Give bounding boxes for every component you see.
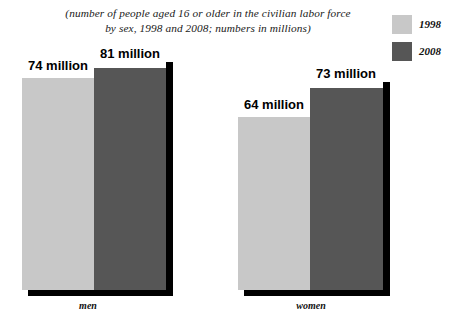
bar-women-2008 [310, 88, 383, 290]
value-label-women-1998: 64 million [237, 97, 311, 112]
bar-men-1998-face [22, 78, 94, 290]
value-label-women-2008: 73 million [308, 66, 384, 81]
bar-women-2008-face [310, 88, 383, 290]
value-label-men-1998: 74 million [21, 58, 95, 73]
bar-women-1998 [238, 117, 310, 290]
category-label-men: men [50, 300, 126, 311]
category-label-women: women [268, 300, 354, 311]
bar-men-2008-face [94, 68, 166, 290]
plot-area: 74 million 81 million men 64 million 73 … [0, 0, 453, 323]
women-2008-side-shadow [383, 82, 390, 290]
women-group-base-shadow [244, 290, 390, 296]
bar-men-2008 [94, 68, 166, 290]
men-group-base-shadow [28, 290, 173, 296]
bar-men-1998 [22, 78, 94, 290]
men-2008-side-shadow [166, 62, 173, 290]
chart-canvas: (number of people aged 16 or older in th… [0, 0, 453, 323]
bar-women-1998-face [238, 117, 310, 290]
value-label-men-2008: 81 million [92, 46, 168, 61]
